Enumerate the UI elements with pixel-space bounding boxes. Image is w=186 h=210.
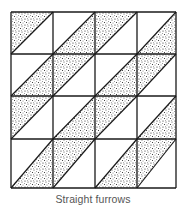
diagram-caption: Straight furrows — [0, 193, 186, 205]
quilt-diagram — [0, 0, 186, 192]
